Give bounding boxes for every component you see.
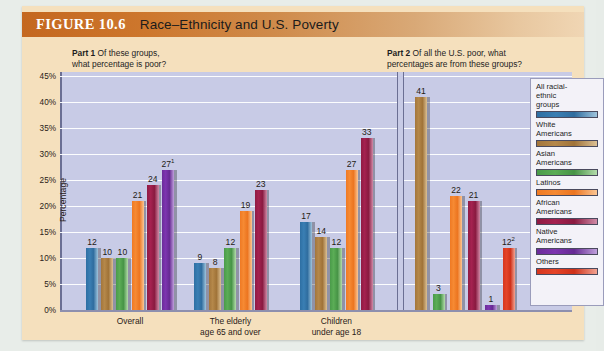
- bar-shadow: [128, 258, 131, 310]
- bar-shadow: [221, 268, 224, 310]
- bar-fill: [346, 170, 358, 310]
- gridline: [60, 76, 572, 77]
- bar-value-label: 12: [87, 237, 97, 247]
- bar-value-label: 33: [362, 127, 372, 137]
- bar-value-label: 1: [489, 294, 494, 304]
- part1-line1: Of these groups,: [98, 48, 160, 58]
- figure-page: FIGURE 10.6 Race–Ethnicity and U.S. Pove…: [22, 6, 584, 340]
- legend-item-label: AsianAmericans: [536, 150, 598, 168]
- bar: 8: [209, 268, 221, 310]
- bar: 19: [240, 211, 252, 310]
- legend-item-swatch: [536, 189, 598, 196]
- bar-shadow: [480, 201, 483, 310]
- x-axis-group-label: The elderlyage 65 and over: [170, 316, 290, 337]
- bar-value-label: 122: [502, 236, 515, 247]
- bar-fill: [101, 258, 113, 310]
- y-axis-tick-label: 45%: [16, 72, 56, 81]
- bar: 41: [415, 97, 427, 310]
- bar-shadow: [327, 237, 330, 310]
- bar-fill: [503, 248, 515, 310]
- bar-fill: [194, 263, 206, 310]
- gridline: [60, 154, 572, 155]
- bar-shadow: [358, 170, 361, 310]
- bar-value-label: 21: [469, 190, 479, 200]
- bar-fill: [86, 248, 98, 310]
- bar: 33: [361, 138, 373, 310]
- x-axis-line: [60, 310, 572, 312]
- bar: 12: [86, 248, 98, 310]
- gridline: [60, 128, 572, 129]
- legend-item-swatch: [536, 111, 598, 118]
- bar-shadow: [144, 201, 147, 310]
- legend-item-swatch: [536, 218, 598, 225]
- legend-item: AfricanAmericans: [536, 199, 598, 225]
- bar-fill: [147, 185, 159, 310]
- bar-value-label: 22: [451, 185, 461, 195]
- bar-fill: [224, 248, 236, 310]
- part2-line1: Of all the U.S. poor, what: [413, 48, 506, 58]
- x-axis-group-label: Childrenunder age 18: [276, 316, 396, 337]
- y-axis-tick-label: 10%: [16, 254, 56, 263]
- bar-fill: [240, 211, 252, 310]
- chart-plot-area: 45%40%35%30%25%20%15%10%5%0% Percentage …: [60, 72, 572, 312]
- legend-item-label: AfricanAmericans: [536, 199, 598, 217]
- bar-shadow: [98, 248, 101, 310]
- bar-value-label: 10: [102, 247, 112, 257]
- legend-item-swatch: [536, 268, 598, 275]
- bar: 122: [503, 248, 515, 310]
- legend-item-label: NativeAmericans: [536, 228, 598, 246]
- bar-shadow: [373, 138, 376, 310]
- bar-fill: [300, 222, 312, 310]
- bar-shadow: [113, 258, 116, 310]
- bar-value-label: 24: [148, 174, 158, 184]
- legend-item-swatch: [536, 140, 598, 147]
- bar: 3: [433, 294, 445, 310]
- part1-line2: what percentage is poor?: [72, 59, 166, 69]
- bar-fill: [415, 97, 427, 310]
- figure-header: FIGURE 10.6 Race–Ethnicity and U.S. Pove…: [22, 12, 584, 37]
- bar-shadow: [206, 263, 209, 310]
- y-axis-tick-label: 20%: [16, 202, 56, 211]
- part2-caption: Part 2 Of all the U.S. poor, what percen…: [387, 48, 577, 69]
- bar-value-label: 21: [133, 190, 143, 200]
- legend-item-swatch: [536, 248, 598, 255]
- y-axis-tick-label: 40%: [16, 98, 56, 107]
- bar-value-label: 3: [436, 283, 441, 293]
- bar-fill: [162, 170, 174, 310]
- legend-item: WhiteAmericans: [536, 121, 598, 147]
- legend-item: Latinos: [536, 179, 598, 196]
- bar-fill: [468, 201, 480, 310]
- bar: 22: [450, 196, 462, 310]
- legend-item-label: Others: [536, 258, 598, 267]
- bar: 17: [300, 222, 312, 310]
- y-axis-tick-label: 35%: [16, 124, 56, 133]
- bar-value-label: 271: [162, 158, 175, 169]
- y-axis-tick-label: 15%: [16, 228, 56, 237]
- bar-fill: [450, 196, 462, 310]
- bar-fill: [433, 294, 445, 310]
- y-axis-tick-label: 25%: [16, 176, 56, 185]
- bar-fill: [209, 268, 221, 310]
- bar-fill: [330, 248, 342, 310]
- bar-value-label: 9: [198, 252, 203, 262]
- legend-item-label: Latinos: [536, 179, 598, 188]
- legend-item: AsianAmericans: [536, 150, 598, 176]
- bar-value-label: 10: [118, 247, 128, 257]
- bar: 12: [224, 248, 236, 310]
- bar-value-label: 12: [332, 237, 342, 247]
- bar-fill: [255, 190, 267, 310]
- bar-shadow: [159, 185, 162, 310]
- y-axis-tick-label: 30%: [16, 150, 56, 159]
- bar-value-label: 17: [301, 211, 311, 221]
- bar-value-label: 14: [316, 226, 326, 236]
- bar-shadow: [312, 222, 315, 310]
- part1-prefix: Part 1: [72, 48, 95, 58]
- bar-shadow: [236, 248, 239, 310]
- bar: 10: [101, 258, 113, 310]
- y-axis-tick-label: 5%: [16, 280, 56, 289]
- legend-item-label: WhiteAmericans: [536, 121, 598, 139]
- bar-shadow: [174, 170, 177, 310]
- chart-legend: All racial-ethnicgroupsWhiteAmericansAsi…: [530, 78, 604, 306]
- bar: 24: [147, 185, 159, 310]
- y-axis-title: Percentage: [58, 178, 68, 222]
